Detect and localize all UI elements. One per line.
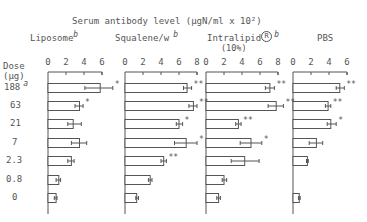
bar (206, 84, 270, 93)
bar (125, 176, 150, 185)
bar (206, 102, 276, 111)
panel: 02468******** (122, 57, 209, 214)
bar-chart-panels: 0246**02468********02468*******0246***** (0, 0, 367, 222)
significance-mark: * (338, 116, 343, 125)
significance-mark: ** (276, 80, 286, 89)
bar (293, 157, 307, 166)
significance-mark: * (199, 135, 204, 144)
bar (206, 176, 224, 185)
bar (125, 84, 187, 93)
tick-label: 6 (176, 57, 181, 67)
tick-label: 2 (63, 57, 68, 67)
panel: 02468******* (203, 57, 295, 214)
significance-mark: ** (168, 153, 178, 162)
tick-label: 8 (275, 57, 280, 67)
tick-label: 2 (221, 57, 226, 67)
bar (206, 120, 238, 129)
tick-label: 2 (308, 57, 313, 67)
tick-label: 4 (158, 57, 163, 67)
tick-label: 4 (326, 57, 331, 67)
bar (293, 120, 331, 129)
significance-mark: ** (346, 80, 356, 89)
tick-label: 4 (81, 57, 86, 67)
tick-label: 6 (257, 57, 262, 67)
significance-mark: ** (333, 98, 343, 107)
tick-label: 0 (45, 57, 50, 67)
tick-label: 0 (203, 57, 208, 67)
significance-mark: ** (194, 80, 204, 89)
tick-label: 6 (344, 57, 349, 67)
tick-label: 0 (122, 57, 127, 67)
tick-label: 0 (290, 57, 295, 67)
significance-mark: * (85, 98, 90, 107)
bar (125, 194, 137, 203)
tick-label: 4 (239, 57, 244, 67)
bar (125, 102, 193, 111)
bar (293, 102, 328, 111)
significance-mark: ** (243, 116, 253, 125)
tick-label: 6 (99, 57, 104, 67)
significance-mark: * (264, 135, 269, 144)
tick-label: 8 (194, 57, 199, 67)
significance-mark: * (185, 116, 190, 125)
bar (293, 84, 340, 93)
tick-label: 2 (140, 57, 145, 67)
significance-mark: * (115, 80, 120, 89)
bar (125, 120, 179, 129)
panel: 0246** (45, 57, 120, 214)
panel: 0246***** (290, 57, 356, 214)
bar (125, 157, 164, 166)
